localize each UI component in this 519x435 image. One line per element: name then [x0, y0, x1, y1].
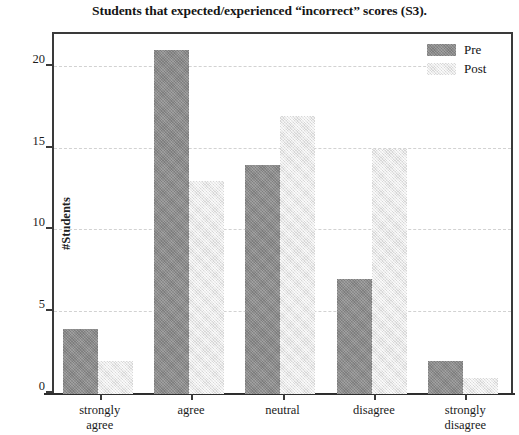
bar-group	[54, 34, 145, 394]
x-axis-category-line: disagree	[353, 403, 395, 418]
x-axis-category-label: agree	[178, 403, 205, 418]
legend-swatch-post	[427, 63, 456, 75]
bar	[428, 361, 463, 394]
bar-group	[328, 34, 419, 394]
x-tick-mark	[465, 394, 467, 400]
y-tick-label-20: 20	[33, 51, 46, 66]
bar	[189, 181, 224, 394]
x-axis-category-line: agree	[79, 418, 120, 433]
x-tick-mark	[374, 394, 376, 400]
bar	[463, 378, 498, 394]
x-axis-category-line: agree	[178, 403, 205, 418]
x-tick-mark	[191, 394, 193, 400]
x-axis-category-label: disagree	[353, 403, 395, 418]
y-tick-mark-20	[46, 64, 53, 66]
x-axis-category-line: neutral	[265, 403, 300, 418]
y-tick-label-0: 0	[39, 379, 45, 394]
chart-title: Students that expected/experienced “inco…	[0, 3, 519, 19]
bar	[98, 361, 133, 394]
x-axis-category-line: strongly	[444, 403, 486, 418]
x-tick-mark	[100, 394, 102, 400]
x-axis-category-label: stronglyagree	[79, 403, 120, 432]
y-tick-mark-5	[46, 309, 53, 311]
bar	[372, 149, 407, 394]
x-axis-category-line: strongly	[79, 403, 120, 418]
bar	[337, 279, 372, 394]
bar	[154, 50, 189, 394]
bar	[63, 329, 98, 394]
bar-group	[420, 34, 511, 394]
bar	[245, 165, 280, 394]
bar	[280, 116, 315, 394]
legend-item-pre[interactable]: Pre	[427, 40, 511, 59]
y-tick-mark-15	[46, 146, 53, 148]
chart-screenshot: Students that expected/experienced “inco…	[0, 0, 519, 435]
x-axis-category-label: neutral	[265, 403, 300, 418]
x-axis-category-label: stronglydisagree	[444, 403, 486, 432]
bar-group	[145, 34, 236, 394]
legend-label: Post	[464, 61, 486, 77]
x-axis-category-line: disagree	[444, 418, 486, 433]
plot-area: #Students 05101520 stronglyagreeagreeneu…	[54, 34, 511, 394]
y-tick-label-5: 5	[39, 297, 45, 312]
legend-item-post[interactable]: Post	[427, 59, 511, 78]
y-tick-mark-0	[46, 391, 53, 393]
chart-legend: PrePost	[427, 37, 511, 81]
legend-label: Pre	[464, 42, 481, 58]
y-tick-label-15: 15	[33, 133, 46, 148]
bar-group	[237, 34, 328, 394]
legend-swatch-pre	[427, 44, 456, 56]
x-tick-mark	[283, 394, 285, 400]
y-tick-mark-10	[46, 227, 53, 229]
y-tick-label-10: 10	[33, 215, 46, 230]
